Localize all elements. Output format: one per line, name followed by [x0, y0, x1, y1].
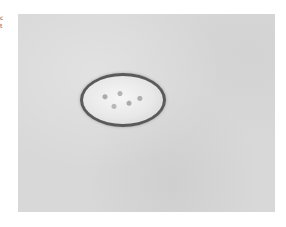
micrograph-photo [18, 14, 275, 212]
cropped-edge-text: c t [0, 14, 6, 30]
parasite-egg [80, 73, 166, 127]
edge-text-line: c [0, 14, 6, 22]
edge-text-line: t [0, 22, 6, 30]
